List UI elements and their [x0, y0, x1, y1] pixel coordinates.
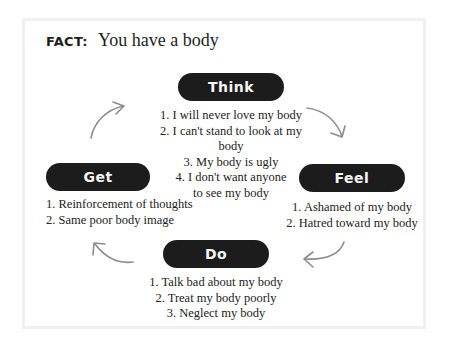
arrow-do-to-get [93, 243, 133, 262]
cycle-arrows [0, 0, 449, 352]
arrow-feel-to-do [304, 242, 344, 267]
arrow-get-to-think [91, 102, 124, 138]
arrow-think-to-feel [307, 108, 345, 137]
